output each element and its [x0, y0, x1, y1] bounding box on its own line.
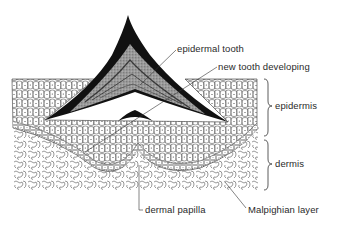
dermis-brace [264, 140, 272, 190]
label-malpighian-layer: Malpighian layer [248, 205, 319, 215]
label-new-tooth-developing: new tooth developing [218, 62, 310, 72]
label-dermis: dermis [275, 159, 304, 169]
label-epidermal-tooth: epidermal tooth [177, 44, 244, 54]
label-epidermis: epidermis [275, 101, 317, 111]
epidermal-tooth [45, 15, 228, 122]
skin-tooth-diagram [0, 0, 342, 228]
label-dermal-papilla: dermal papilla [145, 205, 206, 215]
epidermis-brace [264, 79, 272, 136]
